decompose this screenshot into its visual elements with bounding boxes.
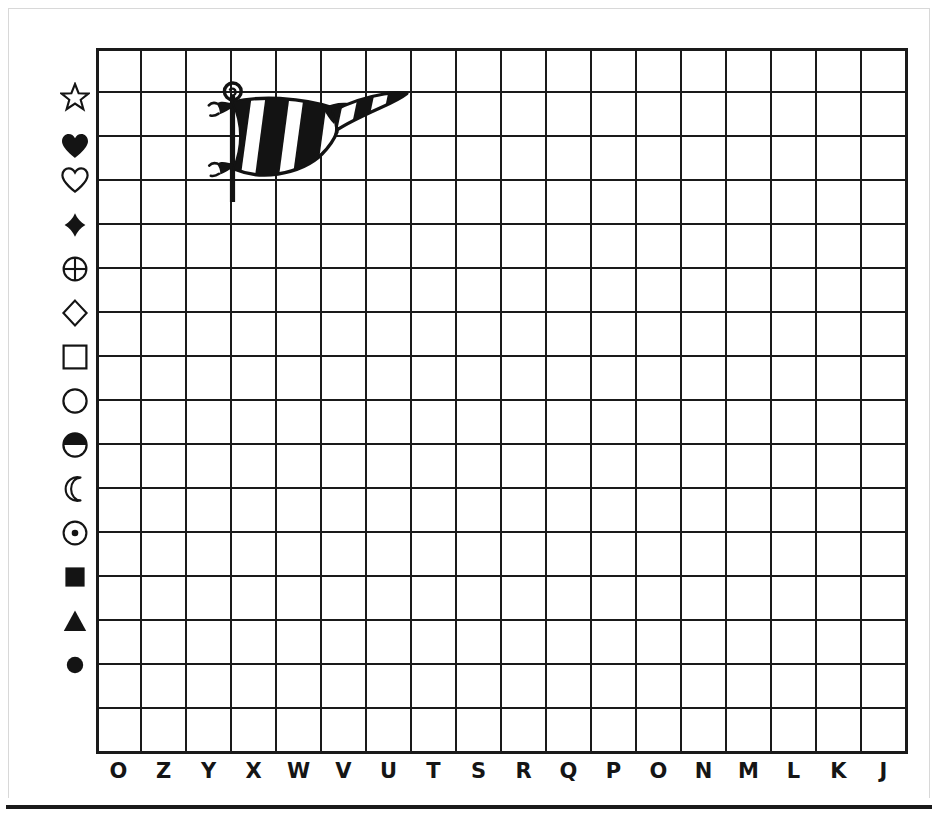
- column-label: O: [636, 756, 681, 790]
- column-label: R: [501, 756, 546, 790]
- column-label: O: [96, 756, 141, 790]
- circle-cross-icon: [60, 254, 90, 284]
- row-symbol-heart-outline-symbol: [54, 158, 96, 202]
- diamond-filled-icon: [60, 210, 90, 240]
- circle-outline-icon: [60, 386, 90, 416]
- column-label: Q: [546, 756, 591, 790]
- row-symbol-half-circle-symbol: [54, 423, 96, 467]
- column-label: L: [771, 756, 816, 790]
- grid-border: [98, 50, 907, 753]
- column-label: Z: [141, 756, 186, 790]
- half-circle-icon: [60, 430, 90, 460]
- diamond-outline-icon: [60, 298, 90, 328]
- row-symbol-circle-filled-symbol: [54, 643, 96, 687]
- column-label: T: [411, 756, 456, 790]
- row-symbol-triangle-filled-symbol: [54, 599, 96, 643]
- column-label: X: [231, 756, 276, 790]
- column-label: M: [726, 756, 771, 790]
- square-outline-icon: [60, 342, 90, 372]
- row-symbol-circle-dot-symbol: [54, 511, 96, 555]
- row-symbol-diamond-filled-symbol: [54, 203, 96, 247]
- column-label: Y: [186, 756, 231, 790]
- coordinate-grid: [96, 48, 908, 754]
- row-symbol-square-filled-symbol: [54, 555, 96, 599]
- column-label: V: [321, 756, 366, 790]
- square-filled-icon: [60, 562, 90, 592]
- row-symbol-key: [54, 48, 96, 752]
- grid-svg: [96, 48, 908, 754]
- bottom-rule: [6, 805, 932, 809]
- column-label: W: [276, 756, 321, 790]
- triangle-filled-icon: [60, 606, 90, 636]
- star-outline-icon: [60, 82, 90, 112]
- row-symbol-circle-outline-symbol: [54, 379, 96, 423]
- row-symbol-diamond-outline-symbol: [54, 291, 96, 335]
- column-label-row: OZYXWVUTSRQPONMLKJ: [96, 756, 906, 790]
- column-label: U: [366, 756, 411, 790]
- heart-filled-icon: [60, 131, 90, 161]
- circle-filled-icon: [60, 650, 90, 680]
- column-label: K: [816, 756, 861, 790]
- row-symbol-square-outline-symbol: [54, 335, 96, 379]
- column-label: S: [456, 756, 501, 790]
- column-label: N: [681, 756, 726, 790]
- row-symbol-crescent-moon-symbol: [54, 467, 96, 511]
- heart-outline-icon: [60, 165, 90, 195]
- crescent-moon-icon: [60, 474, 90, 504]
- circle-dot-icon: [60, 518, 90, 548]
- row-symbol-circle-cross-symbol: [54, 247, 96, 291]
- row-symbol-star-outline-symbol: [54, 75, 96, 119]
- column-label: J: [861, 756, 906, 790]
- worksheet-page: OZYXWVUTSRQPONMLKJ: [0, 0, 938, 824]
- column-label: P: [591, 756, 636, 790]
